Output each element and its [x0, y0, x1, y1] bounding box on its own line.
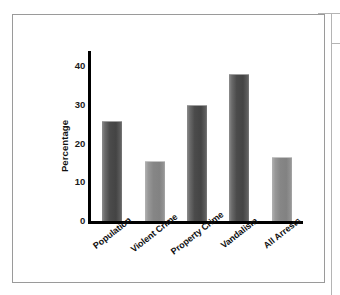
x-label-slot: Population [91, 225, 133, 281]
x-label-slot: Violent Crime [133, 225, 175, 281]
bar-population [102, 121, 122, 221]
chart-container: 40 30 20 10 0 Percentage [12, 14, 325, 283]
bar-all-arrests [272, 157, 292, 221]
y-tick-label: 40 [63, 60, 85, 71]
x-label-slot: Property Crime [176, 225, 218, 281]
bar-vandalism [229, 74, 249, 221]
bar-property-crime [187, 105, 207, 221]
bar-slot [91, 15, 133, 221]
frame-line-vertical-right [331, 13, 332, 295]
bar-slot [176, 15, 218, 221]
y-axis-title-text: Percentage [59, 120, 70, 172]
x-label-slot: All Arrests [261, 225, 303, 281]
bar-slot [261, 15, 303, 221]
y-tick-label: 0 [63, 215, 85, 226]
frame-line-horizontal-row [331, 43, 340, 44]
y-axis-title: Percentage [57, 111, 71, 181]
bar-violent-crime [145, 161, 165, 221]
x-axis-tick-labels: Population Violent Crime Property Crime … [91, 225, 303, 281]
bar-slot [218, 15, 260, 221]
bar-chart-plot: 40 30 20 10 0 Percentage [13, 15, 324, 282]
bar-slot [133, 15, 175, 221]
bar-group [91, 15, 303, 221]
x-label-slot: Vandalism [218, 225, 260, 281]
y-tick-label: 30 [63, 99, 85, 110]
